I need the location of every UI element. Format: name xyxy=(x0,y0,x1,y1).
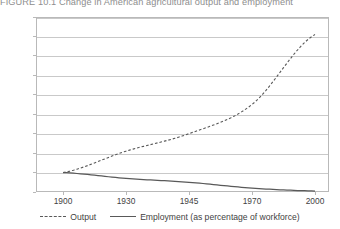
series-line-output xyxy=(63,35,315,173)
x-axis-tick-label: 2000 xyxy=(306,197,325,206)
x-axis-tick-label: 1930 xyxy=(117,197,136,206)
dashed-line-swatch-icon xyxy=(40,214,66,220)
figure-container: FIGURE 10.1 Change in American agricultu… xyxy=(0,0,340,229)
legend-label: Employment (as percentage of workforce) xyxy=(140,212,300,222)
series-line-employment xyxy=(63,173,315,191)
x-axis-tick-label: 1900 xyxy=(54,197,73,206)
legend-item-output[interactable]: Output xyxy=(40,212,96,222)
x-axis-tick xyxy=(189,192,190,195)
chart-legend: OutputEmployment (as percentage of workf… xyxy=(0,210,340,224)
x-axis-tick-label: 1970 xyxy=(243,197,262,206)
solid-line-swatch-icon xyxy=(110,214,136,220)
x-axis-tick xyxy=(252,192,253,195)
x-axis: 19001930194519702000 xyxy=(36,192,329,208)
x-axis-tick-label: 1945 xyxy=(180,197,199,206)
figure-title: FIGURE 10.1 Change in American agricultu… xyxy=(0,0,340,9)
legend-item-employment[interactable]: Employment (as percentage of workforce) xyxy=(110,212,300,222)
series-layer xyxy=(36,17,329,192)
figure-title-bar: FIGURE 10.1 Change in American agricultu… xyxy=(0,0,340,10)
x-axis-tick xyxy=(63,192,64,195)
x-axis-tick xyxy=(315,192,316,195)
x-axis-tick xyxy=(126,192,127,195)
legend-label: Output xyxy=(70,212,96,222)
